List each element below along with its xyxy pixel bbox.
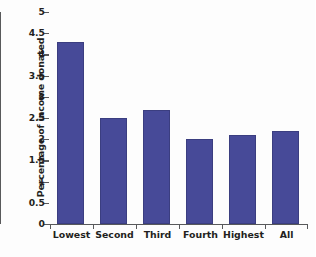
bar-group xyxy=(265,12,308,224)
bar xyxy=(272,131,299,224)
bar xyxy=(229,135,256,224)
x-axis-label-all: All xyxy=(257,229,316,240)
y-tick-label: 0 xyxy=(39,219,45,228)
y-tick-label: 2 xyxy=(39,135,45,144)
y-axis-line xyxy=(0,12,1,224)
y-tick-label: 3 xyxy=(39,92,45,101)
bar-group xyxy=(50,12,93,224)
bar-group xyxy=(179,12,222,224)
y-tick-label: 3.5 xyxy=(29,71,45,80)
bar xyxy=(186,139,213,224)
bar xyxy=(57,42,84,224)
bar-chart-figure: Percentage of income donated 00.511.522.… xyxy=(0,0,315,257)
bars-layer xyxy=(49,12,307,224)
bar xyxy=(100,118,127,224)
y-tick-label: 2.5 xyxy=(29,113,45,122)
plot-area: 00.511.522.533.544.55 xyxy=(49,12,307,224)
y-tick-label: 4 xyxy=(39,50,45,59)
bar xyxy=(143,110,170,224)
y-tick-label: 0.5 xyxy=(29,198,45,207)
bar-group xyxy=(136,12,179,224)
bar-group xyxy=(222,12,265,224)
bar-group xyxy=(93,12,136,224)
y-tick-label: 1 xyxy=(39,177,45,186)
y-tick-label: 1.5 xyxy=(29,156,45,165)
y-tick-label: 4.5 xyxy=(29,29,45,38)
y-tick-label: 5 xyxy=(39,7,45,16)
